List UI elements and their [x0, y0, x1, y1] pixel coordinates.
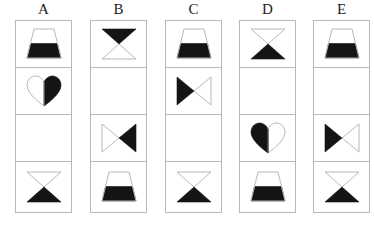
cell-c-3[interactable]: [166, 115, 221, 162]
cell-b-4[interactable]: [91, 162, 146, 212]
hourglass-top-triangle: [251, 29, 285, 44]
column-label-b: B: [90, 0, 147, 18]
shape-trapezoid-bottom-filled-glyph: [322, 27, 362, 61]
cell-d-3[interactable]: [240, 115, 295, 162]
shape-hourglass-bottom-filled-glyph: [248, 27, 288, 61]
column-box-a: [15, 20, 72, 213]
shape-matrix-board: ABCDE: [0, 0, 374, 231]
cell-c-4[interactable]: [166, 162, 221, 212]
cell-a-1[interactable]: [16, 21, 71, 68]
heart-right-lobe: [44, 76, 61, 106]
cell-b-2[interactable]: [91, 68, 146, 115]
heart-right-lobe: [268, 123, 285, 153]
cell-b-3[interactable]: [91, 115, 146, 162]
hourglass-top-triangle: [27, 172, 61, 187]
column-box-c: [165, 20, 222, 213]
bowtie-right-triangle: [342, 124, 359, 152]
cell-d-2[interactable]: [240, 68, 295, 115]
bowtie-right-triangle: [119, 124, 136, 152]
trapezoid-filled-half: [102, 187, 136, 202]
trapezoid-filled-half: [325, 44, 359, 59]
heart-left-lobe: [251, 123, 268, 153]
column-box-b: [90, 20, 147, 213]
trapezoid-filled-half: [251, 187, 285, 202]
column-label-a: A: [15, 0, 72, 18]
shape-hourglass-bottom-filled-glyph: [24, 170, 64, 204]
hourglass-bottom-triangle: [325, 187, 359, 202]
cell-e-4[interactable]: [314, 162, 369, 212]
shape-heart-right-filled-glyph: [24, 74, 64, 108]
shape-hourglass-top-filled-glyph: [99, 27, 139, 61]
shape-heart-left-filled-glyph: [248, 121, 288, 155]
cell-d-4[interactable]: [240, 162, 295, 212]
bowtie-left-triangle: [325, 124, 342, 152]
cell-c-1[interactable]: [166, 21, 221, 68]
bowtie-left-triangle: [102, 124, 119, 152]
cell-a-2[interactable]: [16, 68, 71, 115]
cell-e-2[interactable]: [314, 68, 369, 115]
hourglass-bottom-triangle: [251, 44, 285, 59]
shape-bowtie-right-filled-glyph: [99, 121, 139, 155]
heart-left-lobe: [27, 76, 44, 106]
hourglass-top-triangle: [102, 29, 136, 44]
shape-trapezoid-bottom-filled-glyph: [99, 170, 139, 204]
shape-trapezoid-bottom-filled-glyph: [174, 27, 214, 61]
shape-bowtie-left-filled-glyph: [174, 74, 214, 108]
cell-a-4[interactable]: [16, 162, 71, 212]
bowtie-right-triangle: [194, 77, 211, 105]
hourglass-bottom-triangle: [102, 44, 136, 59]
shape-bowtie-left-filled-glyph: [322, 121, 362, 155]
column-label-e: E: [313, 0, 370, 18]
column-label-d: D: [239, 0, 296, 18]
column-box-e: [313, 20, 370, 213]
hourglass-bottom-triangle: [27, 187, 61, 202]
trapezoid-filled-half: [27, 44, 61, 59]
hourglass-bottom-triangle: [177, 187, 211, 202]
cell-d-1[interactable]: [240, 21, 295, 68]
column-box-d: [239, 20, 296, 213]
cell-e-3[interactable]: [314, 115, 369, 162]
shape-trapezoid-bottom-filled-glyph: [24, 27, 64, 61]
bowtie-left-triangle: [177, 77, 194, 105]
shape-trapezoid-bottom-filled-glyph: [248, 170, 288, 204]
trapezoid-filled-half: [177, 44, 211, 59]
shape-hourglass-bottom-filled-glyph: [322, 170, 362, 204]
hourglass-top-triangle: [177, 172, 211, 187]
cell-e-1[interactable]: [314, 21, 369, 68]
cell-a-3[interactable]: [16, 115, 71, 162]
cell-b-1[interactable]: [91, 21, 146, 68]
cell-c-2[interactable]: [166, 68, 221, 115]
shape-hourglass-bottom-filled-glyph: [174, 170, 214, 204]
column-label-c: C: [165, 0, 222, 18]
hourglass-top-triangle: [325, 172, 359, 187]
